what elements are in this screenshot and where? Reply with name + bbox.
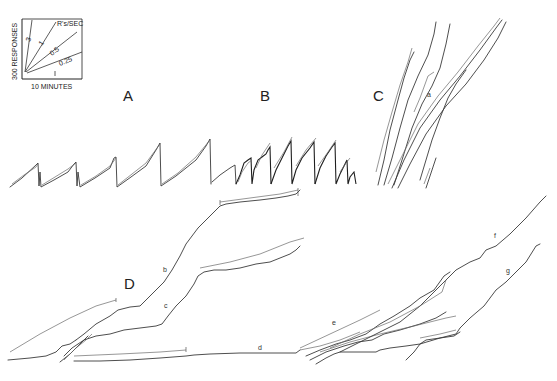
panel-c-record: a: [376, 18, 506, 188]
record-b-seg-1: [236, 147, 271, 184]
record-d-curve: [74, 350, 300, 361]
curve-label-d: d: [258, 344, 262, 351]
record-c-2: [384, 22, 436, 185]
record-f-pen: [330, 280, 446, 348]
record-b-pen-3: [274, 137, 292, 168]
panel-b-record: [212, 137, 356, 184]
rate-line-3: [25, 20, 32, 72]
record-d-pen: [74, 350, 186, 356]
record-a-pen-5: [162, 140, 210, 184]
record-a-pen-3: [81, 158, 116, 185]
curve-label-e: e: [332, 319, 336, 326]
rate-header: R's/SEC: [57, 20, 83, 27]
record-e-pen-1: [300, 310, 380, 348]
record-c-1: [378, 52, 414, 185]
curve-label-f: f: [494, 232, 496, 239]
x-axis-label: 10 MINUTES: [31, 83, 73, 90]
panel-label-a: A: [123, 87, 133, 104]
rate-1-label: 1: [37, 39, 45, 46]
panel-label-d: D: [124, 275, 135, 292]
record-c-4: [392, 20, 502, 188]
record-c-1-pen: [376, 48, 412, 172]
record-a-pen-2: [42, 163, 76, 185]
curve-label-b: b: [163, 266, 167, 273]
curve-label-c: c: [164, 302, 168, 309]
record-b-pen-5: [318, 140, 336, 166]
record-a-pen-4: [118, 144, 160, 185]
record-c-curve: [64, 246, 300, 356]
record-f-curve: [340, 196, 546, 352]
rate-0-25-label: 0.25: [58, 55, 73, 67]
record-c-8: [426, 158, 436, 188]
rate-3-label: 3: [24, 36, 32, 42]
record-e-curve-2: [310, 312, 446, 360]
y-axis-label: 300 RESPONSES: [11, 22, 18, 80]
panel-d-record: b c d e f g: [8, 188, 546, 364]
record-e-pen-2: [320, 316, 456, 352]
record-b-pen-4: [296, 138, 316, 166]
record-b-seg-0: [212, 165, 236, 184]
record-c-3: [394, 24, 450, 185]
record-c-5: [398, 22, 506, 188]
panel-label-b: B: [260, 87, 270, 104]
record-c-7: [420, 70, 466, 180]
record-a-main: [10, 139, 211, 187]
record-d-left-pen: [10, 300, 116, 352]
record-c-8-pen: [424, 168, 430, 184]
panel-a-record: [10, 139, 211, 187]
record-b-pen-1: [238, 160, 252, 182]
scale-key: R's/SEC 3 1 0.5 0.25 300 RESPONSES 10 MI…: [11, 19, 83, 90]
record-b-curve: [76, 190, 300, 340]
record-c-pen: [200, 238, 304, 268]
rate-line-1: [25, 22, 56, 72]
record-e-pen-3: [300, 332, 360, 350]
record-b-pen-2: [256, 143, 270, 168]
record-b-seg-3: [315, 143, 356, 184]
record-cross-1: [60, 336, 88, 362]
panel-label-c: C: [373, 87, 384, 104]
curve-label-g: g: [506, 267, 510, 275]
curve-label-a: a: [427, 91, 431, 98]
cumulative-record-figure: R's/SEC 3 1 0.5 0.25 300 RESPONSES 10 MI…: [0, 0, 557, 381]
record-b-pen-6: [340, 158, 350, 172]
